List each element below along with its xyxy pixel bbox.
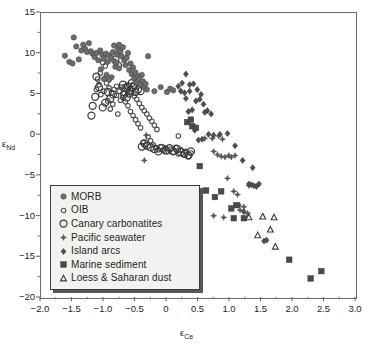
y-tick-label: 10 — [8, 47, 35, 58]
legend-item-label: Pacific seawater — [71, 233, 145, 243]
legend-item-oib[interactable]: OIB — [55, 204, 194, 218]
open-circle-large-icon — [55, 217, 71, 230]
open-triangle-icon — [55, 272, 71, 285]
y-tick-label: −20 — [8, 291, 35, 302]
legend-item-canary-carbonatites[interactable]: Canary carbonatites — [55, 217, 194, 231]
series-loess-saharan-dust — [246, 213, 278, 249]
legend-item-label: OIB — [71, 205, 89, 215]
legend-item-label: MORB — [71, 192, 101, 202]
y-tick-label: −10 — [8, 210, 35, 221]
legend-item-marine-sediment[interactable]: Marine sediment — [55, 258, 194, 272]
x-axis-title: εCe — [180, 327, 193, 340]
y-tick-label: −5 — [8, 169, 35, 180]
four-point-star-icon — [55, 231, 71, 244]
y-tick-label: −15 — [8, 250, 35, 261]
legend-item-label: Loess & Saharan dust — [71, 273, 171, 283]
y-tick-label: 5 — [8, 87, 35, 98]
y-axis-title: εNd — [2, 138, 15, 151]
filled-circle-icon — [55, 190, 71, 203]
legend-item-loess-saharan-dust[interactable]: Loess & Saharan dust — [55, 272, 194, 286]
legend-item-label: Canary carbonatites — [71, 219, 162, 229]
series-marine-sediment — [184, 117, 324, 281]
legend[interactable]: MORBOIBCanary carbonatitesPacific seawat… — [50, 185, 200, 290]
figure-scatter-plot: −2.0−1.5−1.0−0.500.51.01.52.02.53.015105… — [0, 0, 377, 349]
filled-diamond-icon — [55, 245, 71, 258]
open-circle-small-icon — [55, 204, 71, 217]
legend-item-pacific-seawater[interactable]: Pacific seawater — [55, 231, 194, 245]
legend-item-morb[interactable]: MORB — [55, 190, 194, 204]
legend-item-label: Island arcs — [71, 246, 120, 256]
filled-square-icon — [55, 258, 71, 271]
legend-item-label: Marine sediment — [71, 260, 146, 270]
legend-item-island-arcs[interactable]: Island arcs — [55, 244, 194, 258]
x-tick-label: 3.0 — [337, 303, 373, 314]
y-tick-label: 15 — [8, 6, 35, 17]
